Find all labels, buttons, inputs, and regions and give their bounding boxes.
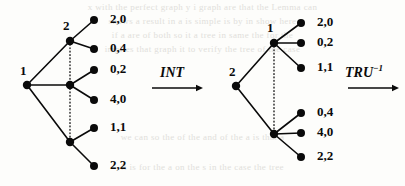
- tree-diagram-svg: [0, 0, 405, 186]
- tree-leaf-node: [90, 162, 98, 170]
- int-arrow-head: [196, 85, 203, 91]
- right-tree: [232, 19, 305, 161]
- tree-leaf-edge: [70, 20, 94, 41]
- int-arrow-label: INT: [160, 66, 184, 80]
- tree-leaf-node: [90, 16, 98, 24]
- right-tree-leaf-label: 0,2: [317, 35, 333, 48]
- tree-internal-node: [66, 37, 74, 45]
- tree-leaf-node: [297, 19, 305, 27]
- tree-leaf-node: [90, 96, 98, 104]
- tree-leaf-edge: [70, 142, 94, 166]
- tree-leaf-edge: [70, 70, 94, 85]
- tree-leaf-node: [297, 39, 305, 47]
- tree-leaf-node: [90, 45, 98, 53]
- tru-inverse-arrow-label-text: TRU: [345, 65, 373, 80]
- tree-leaf-edge: [274, 113, 301, 134]
- tree-leaf-node: [297, 129, 305, 137]
- tree-internal-node: [270, 130, 278, 138]
- tree-internal-node: [270, 39, 278, 47]
- tree-leaf-node: [90, 66, 98, 74]
- tree-leaf-edge: [70, 85, 94, 100]
- left-tree-leaf-label: 0,2: [110, 62, 126, 75]
- figure-container: x with the perfect graph y i graph are t…: [0, 0, 405, 186]
- right-tree-internal-label-1: 1: [267, 21, 274, 34]
- left-tree-internal-label-2: 2: [63, 19, 70, 32]
- tree-leaf-node: [297, 64, 305, 72]
- tree-edge: [27, 41, 70, 85]
- left-tree-leaf-label: 2,2: [110, 158, 126, 171]
- tree-edge: [236, 43, 274, 86]
- left-tree-leaf-label: 0,4: [110, 41, 126, 54]
- tree-leaf-node: [90, 124, 98, 132]
- tree-leaf-node: [297, 153, 305, 161]
- right-tree-leaf-label: 0,4: [317, 105, 333, 118]
- tree-root-node: [232, 82, 240, 90]
- arrow-group: [152, 85, 399, 91]
- tree-edge: [27, 85, 70, 142]
- left-tree-root-label: 1: [20, 64, 27, 77]
- int-arrow-label-text: INT: [160, 65, 184, 80]
- right-tree-leaf-label: 2,0: [317, 15, 333, 28]
- left-tree-leaf-label: 2,0: [110, 12, 126, 25]
- left-tree-leaf-label: 1,1: [110, 120, 126, 133]
- tru-inverse-exponent: −1: [373, 63, 383, 73]
- tree-leaf-edge: [274, 134, 301, 157]
- tree-internal-node: [66, 138, 74, 146]
- tree-internal-node: [66, 81, 74, 89]
- right-tree-leaf-label: 2,2: [317, 149, 333, 162]
- tree-leaf-edge: [274, 23, 301, 43]
- tree-leaf-node: [297, 109, 305, 117]
- left-tree-leaf-label: 4,0: [110, 92, 126, 105]
- left-tree: [23, 16, 98, 170]
- tru-inverse-arrow-label: TRU−1: [345, 66, 383, 80]
- tree-edge: [236, 86, 274, 134]
- tru-inverse-arrow-head: [392, 85, 399, 91]
- right-tree-root-label: 2: [229, 65, 236, 78]
- right-tree-leaf-label: 4,0: [317, 125, 333, 138]
- tree-leaf-edge: [274, 43, 301, 68]
- tree-root-node: [23, 81, 31, 89]
- right-tree-leaf-label: 1,1: [317, 60, 333, 73]
